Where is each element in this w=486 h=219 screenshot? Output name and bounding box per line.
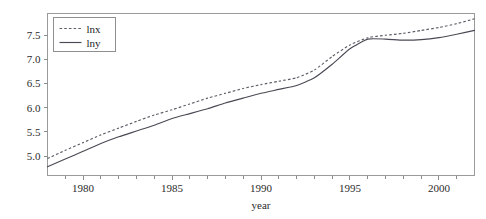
x-tick-label: 1995 <box>339 182 362 194</box>
legend-label-lnx: lnx <box>87 23 102 35</box>
y-tick-label: 5.0 <box>27 150 41 162</box>
chart-container: 19801985199019952000 5.05.56.06.57.07.5 … <box>0 0 486 219</box>
legend-label-lny: lny <box>87 37 102 49</box>
y-axis-tick-labels: 5.05.56.06.57.07.5 <box>27 29 41 162</box>
line-chart: 19801985199019952000 5.05.56.06.57.07.5 … <box>0 0 486 219</box>
x-tick-label: 1980 <box>72 182 95 194</box>
y-tick-label: 7.5 <box>27 29 41 41</box>
y-axis-ticks <box>44 35 48 156</box>
legend-box <box>54 18 116 52</box>
y-tick-label: 6.5 <box>27 77 41 89</box>
y-tick-label: 6.0 <box>27 102 41 114</box>
x-axis-ticks <box>65 176 456 181</box>
x-tick-label: 1985 <box>161 182 184 194</box>
y-tick-label: 7.0 <box>27 53 41 65</box>
chart-legend: lnxlny <box>54 18 116 52</box>
y-tick-label: 5.5 <box>27 126 41 138</box>
x-tick-label: 1990 <box>250 182 273 194</box>
x-axis-tick-labels: 19801985199019952000 <box>72 182 450 194</box>
x-axis-title: year <box>252 199 271 211</box>
x-tick-label: 2000 <box>428 182 451 194</box>
